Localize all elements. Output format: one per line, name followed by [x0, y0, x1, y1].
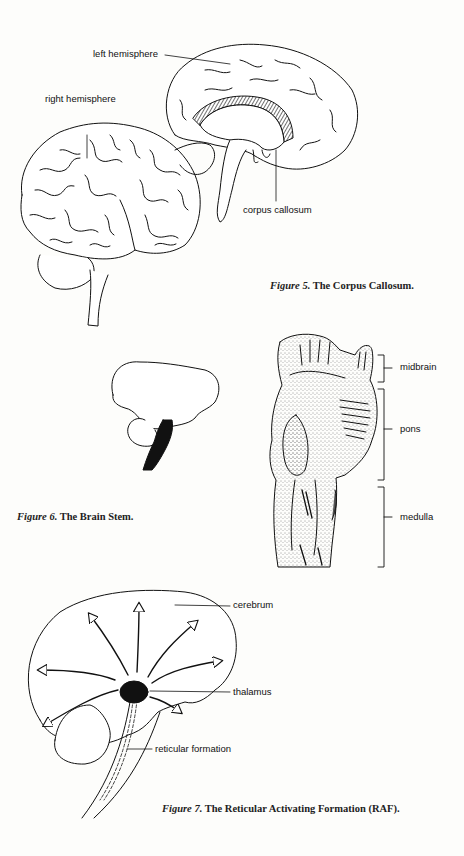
label-medulla: medulla [400, 512, 433, 522]
right-hemisphere-shape [21, 123, 215, 326]
textbook-page: left hemisphere right hemisphere corpus … [0, 0, 464, 856]
figure5-number: Figure 5. [270, 280, 310, 291]
figure7-drawing [28, 590, 236, 818]
figure5-title: The Corpus Callosum. [313, 280, 414, 291]
label-pons: pons [400, 424, 421, 434]
label-right-hemisphere: right hemisphere [45, 94, 116, 104]
figure7-caption: Figure 7. The Reticular Activating Forma… [162, 804, 400, 815]
figure6-number: Figure 6. [17, 511, 57, 522]
thalamus-shape [120, 681, 148, 703]
label-thalamus: thalamus [233, 687, 272, 697]
figure-illustrations [0, 0, 464, 856]
figure7-title: The Reticular Activating Formation (RAF)… [205, 803, 400, 814]
label-left-hemisphere: left hemisphere [93, 49, 158, 59]
figure6-caption: Figure 6. The Brain Stem. [17, 512, 134, 523]
figure7-number: Figure 7. [162, 803, 202, 814]
figure6-title: The Brain Stem. [60, 511, 134, 522]
figure5-caption: Figure 5. The Corpus Callosum. [270, 281, 414, 292]
label-reticular-formation: reticular formation [155, 744, 231, 754]
figure6-drawing [112, 334, 392, 567]
label-midbrain: midbrain [400, 362, 436, 372]
label-corpus-callosum: corpus callosum [243, 205, 312, 215]
brainstem-detailed [270, 334, 377, 567]
label-cerebrum: cerebrum [233, 600, 273, 610]
